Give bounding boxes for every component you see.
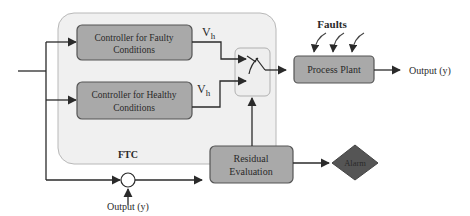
faulty-controller-line2: Conditions (113, 45, 155, 55)
process-plant-block: Process Plant (294, 56, 374, 83)
ftc-label: FTC (118, 149, 138, 160)
ftc-diagram: FTC Controller for Faulty Conditions Con… (0, 0, 470, 216)
faulty-controller-block: Controller for Faulty Conditions (77, 25, 192, 60)
residual-line2: Evaluation (229, 166, 272, 177)
faults-label: Faults (317, 18, 347, 30)
output-bottom-label: Output (y) (107, 201, 149, 213)
alarm-diamond: Alarm (332, 145, 378, 180)
output-right-label: Output (y) (409, 65, 451, 77)
healthy-controller-block: Controller for Healthy Conditions (77, 82, 192, 119)
alarm-label: Alarm (344, 158, 366, 168)
switch-box (235, 48, 270, 96)
residual-line1: Residual (234, 153, 269, 164)
process-plant-label: Process Plant (307, 64, 361, 75)
healthy-controller-line2: Conditions (113, 103, 155, 113)
fault-arrows (314, 33, 364, 52)
faulty-controller-line1: Controller for Faulty (94, 33, 173, 43)
summing-junction (121, 173, 135, 187)
healthy-controller-line1: Controller for Healthy (92, 90, 177, 100)
residual-evaluation-block: Residual Evaluation (210, 146, 293, 183)
